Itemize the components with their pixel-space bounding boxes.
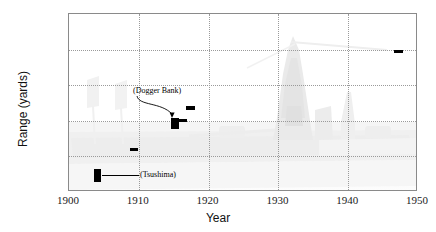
x-tick-label-1910: 1910 [127, 194, 149, 206]
gridline-x-1910 [139, 14, 140, 190]
marker-1948 [394, 50, 403, 54]
gridline-x-1920 [209, 14, 210, 190]
gridline-x-1930 [278, 14, 279, 190]
marker-1916-bar [179, 119, 187, 122]
tsushima-annotation-label: (Tsushima) [140, 170, 176, 179]
chart-figure: 0 10000 20000 30000 40000 50000 1900 191… [0, 0, 436, 232]
tsushima-marker [94, 169, 101, 182]
marker-1910 [130, 148, 138, 152]
dogger-bank-annotation-label: (Dogger Bank) [133, 86, 181, 95]
gridline-x-1940 [348, 14, 349, 190]
y-axis-title: Range (yards) [16, 44, 30, 174]
marker-1918 [186, 106, 195, 110]
x-tick-label-1900: 1900 [57, 194, 79, 206]
battleship-watermark-image [69, 14, 417, 191]
gridline-y-10000 [69, 156, 416, 157]
x-tick-label-1930: 1930 [266, 194, 288, 206]
x-tick-label-1950: 1950 [406, 194, 428, 206]
dogger-bank-marker [171, 118, 179, 129]
gridline-y-20000 [69, 121, 416, 122]
gridline-y-40000 [69, 50, 416, 51]
x-tick-label-1940: 1940 [336, 194, 358, 206]
gridline-y-30000 [69, 85, 416, 86]
plot-area: (Dogger Bank) (Tsushima) [68, 13, 417, 191]
x-tick-label-1920: 1920 [197, 194, 219, 206]
x-axis-title: Year [0, 211, 436, 225]
dogger-bank-annotation-arrow [69, 14, 417, 191]
tsushima-annotation-leader [102, 175, 139, 176]
